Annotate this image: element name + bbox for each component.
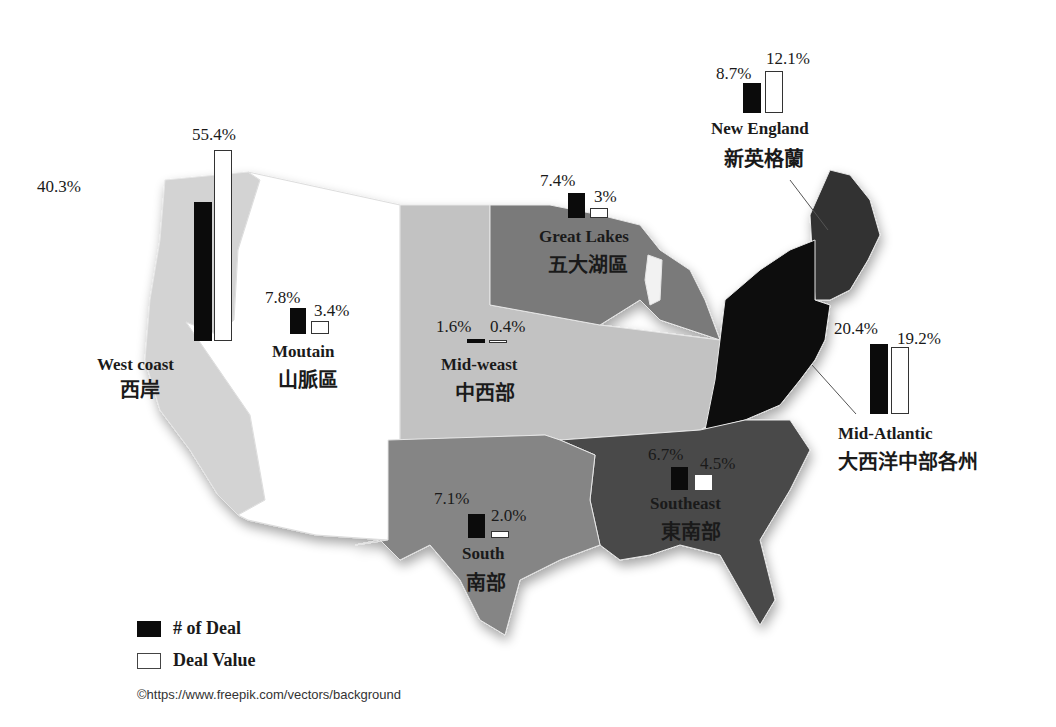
southeast-label-zh: 東南部	[661, 522, 721, 542]
great-lakes-value-bar	[590, 208, 608, 218]
new-england-value-pct: 12.1%	[766, 50, 810, 67]
midwest-deal-pct: 1.6%	[436, 318, 471, 335]
mid-atlantic-label: Mid-Atlantic	[838, 425, 932, 442]
mountain-value-bar	[311, 321, 329, 334]
new-england-deal-bar	[743, 83, 761, 113]
mountain-deal-pct: 7.8%	[265, 289, 300, 306]
mid-atlantic-deal-pct: 20.4%	[834, 320, 878, 337]
great-lakes-deal-pct: 7.4%	[540, 172, 575, 189]
mountain-label: Moutain	[272, 343, 334, 360]
south-label: South	[462, 545, 505, 562]
south-value-pct: 2.0%	[491, 507, 526, 524]
legend-swatch-value	[137, 653, 161, 669]
mid-atlantic-value-pct: 19.2%	[897, 330, 941, 347]
new-england-value-bar	[765, 71, 783, 113]
west-coast-value-pct: 55.4%	[192, 126, 236, 143]
legend-label-deal: # of Deal	[173, 618, 241, 639]
midwest-label: Mid-weast	[441, 356, 517, 373]
south-value-bar	[491, 531, 509, 538]
mountain-value-pct: 3.4%	[314, 302, 349, 319]
southeast-deal-pct: 6.7%	[648, 446, 683, 463]
mid-atlantic-label-zh: 大西洋中部各州	[838, 452, 978, 472]
legend-label-value: Deal Value	[173, 650, 256, 671]
southeast-deal-bar	[671, 467, 688, 490]
southeast-label: Southeast	[650, 495, 721, 512]
great-lakes-label: Great Lakes	[539, 228, 629, 245]
new-england-deal-pct: 8.7%	[716, 65, 751, 82]
image-credit: ©https://www.freepik.com/vectors/backgro…	[137, 687, 401, 702]
west-coast-label: West coast	[97, 356, 174, 373]
midwest-value-bar	[489, 340, 507, 343]
southeast-value-bar	[695, 475, 712, 490]
great-lakes-deal-bar	[568, 193, 585, 218]
new-england-label: New England	[711, 120, 809, 137]
great-lakes-value-pct: 3%	[594, 188, 617, 205]
west-coast-deal-bar	[194, 202, 212, 341]
midwest-label-zh: 中西部	[455, 383, 515, 403]
leader-line-mid-atlantic	[812, 365, 856, 414]
southeast-value-pct: 4.5%	[700, 455, 735, 472]
region-new-england	[810, 170, 880, 300]
mountain-deal-bar	[290, 308, 306, 334]
great-lakes-label-zh: 五大湖區	[548, 255, 628, 275]
south-label-zh: 南部	[466, 573, 506, 593]
midwest-value-pct: 0.4%	[490, 318, 525, 335]
midwest-deal-bar	[467, 339, 485, 343]
mid-atlantic-deal-bar	[870, 344, 888, 414]
west-coast-deal-pct: 40.3%	[37, 178, 81, 195]
new-england-label-zh: 新英格蘭	[724, 149, 804, 169]
legend-swatch-deal	[137, 621, 161, 637]
south-deal-pct: 7.1%	[434, 490, 469, 507]
west-coast-label-zh: 西岸	[120, 380, 160, 400]
region-mid-atlantic	[705, 240, 830, 430]
mid-atlantic-value-bar	[891, 347, 909, 414]
mountain-label-zh: 山脈區	[278, 370, 338, 390]
west-coast-value-bar	[214, 150, 232, 341]
south-deal-bar	[468, 514, 485, 538]
